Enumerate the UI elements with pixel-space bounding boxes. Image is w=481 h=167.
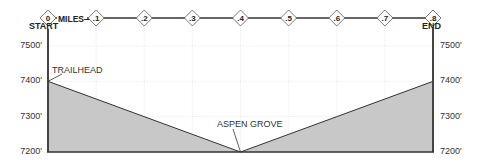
- y-tick-left: 7200': [2, 146, 42, 156]
- y-tick-left: 7300': [2, 111, 42, 121]
- start-label: START: [29, 21, 58, 31]
- y-tick-left: 7400': [2, 75, 42, 85]
- y-tick-right: 7400': [440, 75, 462, 85]
- miles-label: MILES—: [58, 14, 93, 24]
- mile-tick-label: .6: [333, 14, 340, 23]
- y-tick-right: 7500': [440, 40, 462, 50]
- y-tick-right: 7300': [440, 111, 462, 121]
- y-tick-right: 7200': [440, 146, 462, 156]
- elevation-profile-chart: MILES—0.1.2.3.4.5.6.7.8: [0, 0, 481, 167]
- chart-canvas: MILES—0.1.2.3.4.5.6.7.8: [0, 0, 481, 167]
- y-tick-left: 7500': [2, 40, 42, 50]
- mile-tick-label: .7: [382, 14, 389, 23]
- end-label: END: [422, 21, 441, 31]
- aspen-grove-label: ASPEN GROVE: [217, 119, 283, 129]
- mile-tick-label: .3: [189, 14, 196, 23]
- mile-tick-label: .4: [237, 14, 244, 23]
- mile-tick-label: .2: [141, 14, 148, 23]
- trailhead-label: TRAILHEAD: [52, 65, 103, 75]
- mile-tick-label: .5: [285, 14, 292, 23]
- aspen-grove-leader: [233, 129, 241, 152]
- trailhead-leader: [48, 74, 62, 81]
- mile-tick-label: .1: [93, 14, 100, 23]
